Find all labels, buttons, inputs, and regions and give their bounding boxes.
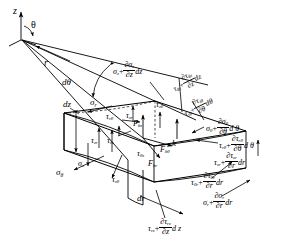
- figure-canvas: z θ r dθ σr dz σz σθ τzθ dr τzr τrz τrθ …: [0, 0, 290, 246]
- inc5-diff: dr: [238, 158, 245, 167]
- inc0-num-sub: z: [132, 64, 134, 69]
- incremented-tau-zr: τzr+∂τzr∂rdr: [214, 152, 245, 170]
- inc7-num-sub: r: [222, 195, 224, 200]
- tau-rz-label: τrz: [107, 137, 114, 146]
- tau-ztheta-label: τzθ: [112, 176, 119, 185]
- tau-ztheta-right-subscript: zθ: [159, 104, 163, 109]
- inc0-fraction: ∂σz∂z: [123, 61, 135, 79]
- inc4-num: ∂τ: [232, 134, 239, 143]
- tau-rtheta-label: τrθ: [106, 113, 113, 122]
- dr-dimension: [140, 196, 183, 214]
- inc0-den: ∂z: [123, 71, 135, 79]
- fbz-subscript: bz: [138, 123, 142, 128]
- inc3-num-sub: θ: [226, 121, 228, 126]
- tau-thetaz-left-label: τθz: [137, 150, 144, 159]
- inc3-diff: d θ: [229, 124, 239, 133]
- tau-thetaz-left-subscript: θz: [140, 153, 144, 158]
- dz-label: dz: [63, 100, 71, 109]
- tau-zr-center-label: τzr: [126, 112, 133, 121]
- inc8-diff: d z: [172, 224, 181, 233]
- inc3-fraction: ∂σθ∂θ: [217, 118, 229, 136]
- incremented-sigma-r: σr+∂σr∂rdr: [203, 192, 232, 210]
- inc6-den: ∂r: [203, 182, 216, 190]
- theta-angle-label: θ: [31, 20, 36, 30]
- k-unit-vector-label: k: [172, 139, 176, 148]
- diagram-geometry: [0, 0, 290, 246]
- leader-sigma-z-plus: [150, 82, 164, 100]
- dtheta-label: dθ: [62, 78, 71, 87]
- inc0-diff: dz: [135, 67, 142, 76]
- dr-text: dr: [137, 193, 145, 203]
- fbr-vector: [143, 138, 160, 158]
- tau-zr-label: τzr: [91, 137, 98, 146]
- inc8-den: ∂z: [159, 228, 172, 236]
- inc5-fraction: ∂τzr∂r: [225, 152, 238, 170]
- incremented-tau-rtheta: τrθ+∂τrθ∂θd θ: [219, 135, 254, 153]
- fbtheta-subscript: bθ: [165, 149, 170, 154]
- inc3-num: ∂σ: [218, 117, 226, 126]
- inc5-num-sub: zr: [233, 155, 237, 160]
- inc8-num-sub: rz: [167, 221, 171, 226]
- inc6-num: ∂τ: [204, 171, 211, 180]
- dz-text: dz: [63, 99, 71, 109]
- fbtheta-vector: [143, 138, 172, 146]
- incremented-tau-thetar: τθr+∂τθr∂rdr: [191, 172, 223, 190]
- dtheta-arc: [93, 65, 110, 97]
- inc4-num-sub: rθ: [239, 138, 243, 143]
- inc7-den: ∂r: [213, 202, 225, 210]
- leader-tau-rz-plus: [156, 190, 165, 218]
- fbtheta-label: Fbθ: [160, 146, 170, 155]
- inc4-diff: d θ: [244, 141, 254, 150]
- inc7-diff: dr: [225, 198, 232, 207]
- sigma-z-subscript: z: [82, 163, 84, 168]
- tau-ztheta-right-label: τzθ: [156, 101, 163, 110]
- r-radius-label: r: [44, 58, 48, 68]
- inc6-num-sub: θr: [211, 175, 215, 180]
- leader-sigma-theta-plus: [192, 127, 204, 133]
- fbr-subscript: br: [153, 163, 157, 168]
- tau-rz-subscript: rz: [110, 140, 114, 145]
- inc5-den: ∂r: [225, 162, 238, 170]
- sigma-z-base-label: σz: [78, 160, 84, 169]
- leader-tau-rtheta-plus: [196, 140, 218, 143]
- inc6-diff: dr: [216, 178, 223, 187]
- fbz-label: Fbz: [133, 120, 142, 129]
- sigma-r-subscript: r: [94, 102, 96, 108]
- tau-zr-subscript: zr: [94, 140, 98, 145]
- inc6-fraction: ∂τθr∂r: [203, 172, 216, 190]
- dr-label: dr: [137, 194, 145, 203]
- inc8-fraction: ∂τrz∂z: [159, 218, 172, 236]
- incremented-tau-rz: τrz+∂τrz∂zd z: [148, 218, 181, 236]
- sigma-theta-subscript: θ: [60, 172, 63, 178]
- tau-rtheta-subscript: rθ: [109, 116, 113, 121]
- incremented-sigma-z: σz+∂σz∂zdz: [113, 61, 142, 79]
- sigma-theta-label: σθ: [56, 168, 63, 178]
- origin-ground-left: [9, 40, 21, 46]
- z-axis-label: z: [13, 6, 17, 16]
- inc7-fraction: ∂σr∂r: [213, 192, 225, 210]
- fbr-label: Fbr: [148, 160, 157, 169]
- r-arrow: [36, 46, 70, 61]
- tau-ztheta-subscript: zθ: [115, 179, 119, 184]
- sigma-r-label: σr: [90, 98, 97, 108]
